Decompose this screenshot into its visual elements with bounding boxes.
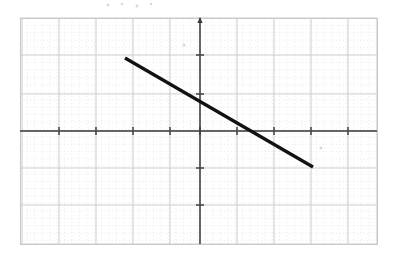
coordinate-plane-figure [0, 0, 395, 261]
graph-canvas [0, 0, 395, 261]
